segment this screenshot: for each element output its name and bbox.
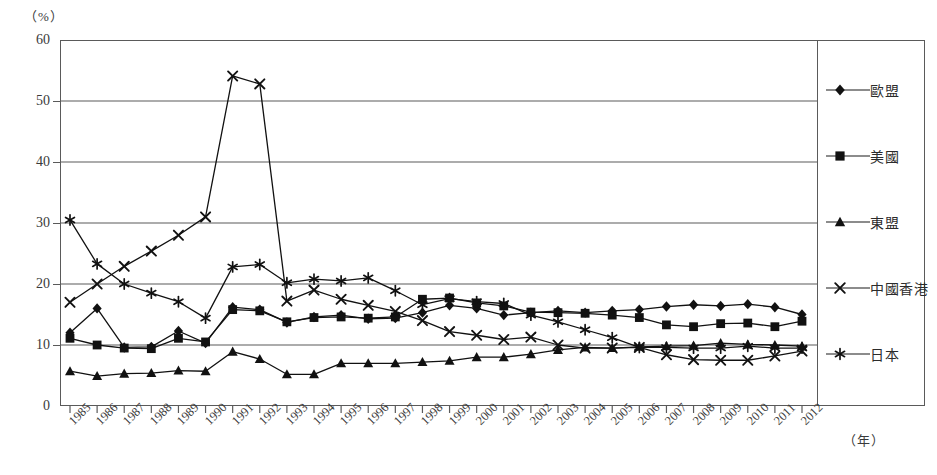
x-axis-tick-label: 1994 [310, 400, 338, 428]
legend-label: 日本 [870, 344, 899, 364]
x-axis-tick-label: 1995 [337, 400, 365, 428]
x-axis-tick-label: 1996 [364, 400, 392, 428]
x-axis-tick-label: 2002 [527, 400, 555, 428]
cross-marker [832, 280, 848, 296]
x-axis-tick-label: 2003 [554, 400, 582, 428]
x-axis-tick-label: 1993 [283, 400, 311, 428]
chart-container: （%） （年） 6050403020100 198519861987198819… [0, 0, 937, 475]
legend-item-5[interactable]: 日本 [818, 344, 925, 364]
x-axis-tick-label: 2008 [690, 400, 718, 428]
x-axis-tick-label: 2012 [798, 400, 826, 428]
x-axis-tick-label: 2006 [635, 400, 663, 428]
asterisk-marker [832, 346, 848, 362]
x-axis-tick-label: 2005 [608, 400, 636, 428]
x-axis-tick-label: 2011 [771, 401, 799, 429]
x-axis-tick-label: 1998 [418, 400, 446, 428]
x-axis-tick-label: 2004 [581, 400, 609, 428]
legend-label: 歐盟 [870, 80, 899, 100]
x-axis-tick-label: 2010 [744, 400, 772, 428]
legend-item-3[interactable]: 東盟 [818, 212, 925, 232]
legend-label: 東盟 [870, 212, 899, 232]
x-axis-tick-label: 2007 [662, 400, 690, 428]
legend-label: 美國 [870, 146, 899, 166]
legend-item-4[interactable]: 中國香港 [818, 278, 925, 298]
diamond-marker [832, 82, 848, 98]
triangle-marker [832, 214, 848, 230]
x-axis-tick-label: 1990 [202, 400, 230, 428]
square-marker [832, 148, 848, 164]
x-axis-tick-label: 1986 [93, 400, 121, 428]
legend-item-2[interactable]: 美國 [818, 146, 925, 166]
x-axis-tick-label: 1985 [66, 400, 94, 428]
x-axis-tick-label: 2000 [473, 400, 501, 428]
legend-label: 中國香港 [870, 278, 928, 298]
x-axis-tick-label: 2001 [500, 400, 528, 428]
x-axis-tick-labels: 1985198619871988198919901991199219931994… [0, 0, 937, 475]
x-axis-tick-label: 1989 [174, 400, 202, 428]
x-axis-tick-label: 2009 [717, 400, 745, 428]
x-axis-tick-label: 1992 [256, 400, 284, 428]
x-axis-tick-label: 1987 [120, 400, 148, 428]
x-axis-tick-label: 1991 [229, 400, 257, 428]
legend-item-1[interactable]: 歐盟 [818, 80, 925, 100]
x-axis-tick-label: 1999 [446, 400, 474, 428]
x-axis-tick-label: 1988 [147, 400, 175, 428]
x-axis-tick-label: 1997 [391, 400, 419, 428]
